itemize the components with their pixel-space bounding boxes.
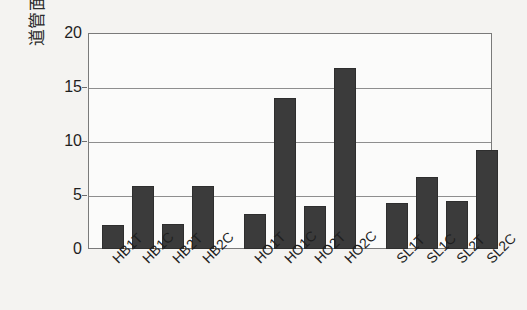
y-tick-mark-15: [82, 87, 87, 88]
y-tick-label-10: 10: [48, 132, 82, 150]
bar-chart-figure: 道管面積率 (%) 20 15 10 5 0 HB1T HB1C HB2T HB…: [0, 0, 527, 310]
y-tick-label-5: 5: [48, 186, 82, 204]
gridline-10: [89, 142, 491, 143]
y-tick-label-0: 0: [48, 240, 82, 258]
y-axis-tick-labels: 20 15 10 5 0: [44, 33, 82, 249]
gridline-15: [89, 88, 491, 89]
y-tick-mark-10: [82, 141, 87, 142]
y-tick-label-20: 20: [48, 24, 82, 42]
gridline-5: [89, 196, 491, 197]
x-axis-tick-labels: HB1T HB1C HB2T HB2C HO1T HO1C HO2T HO2C …: [88, 249, 492, 310]
plot-area: [88, 33, 492, 249]
y-tick-mark-5: [82, 195, 87, 196]
y-tick-label-15: 15: [48, 78, 82, 96]
